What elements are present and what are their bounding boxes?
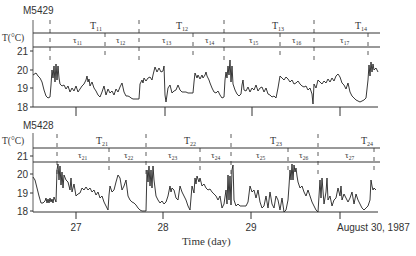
tau14-label: τ14 [205,35,214,46]
bottom-ytick-20: 20 [17,169,29,180]
top-ytick-19: 19 [17,83,29,94]
chart-figure: M5429 T(°C) 21 20 19 18 T [0,0,416,256]
top-y-label: T(°C) [2,33,24,44]
bottom-ytick-19: 19 [17,188,29,199]
bottom-ytick-18: 18 [17,206,29,217]
bottom-ytick-21: 21 [17,151,29,162]
top-ytick-18: 18 [17,102,29,113]
tau16-label: τ16 [292,35,301,46]
tau23-label: τ23 [168,150,177,161]
top-temperature-trace [33,60,378,104]
tau26-label: τ26 [299,150,308,161]
T14-label: T14 [355,20,367,32]
T24-label: T24 [361,135,373,147]
tau24-label: τ24 [211,150,220,161]
T13-label: T13 [272,20,284,32]
top-ytick-20: 20 [17,65,29,76]
xtick-30: August 30, 1987 [337,222,410,233]
bottom-station-label: M5428 [23,120,54,131]
xtick-29: 29 [245,222,257,233]
tau17-label: τ17 [340,35,349,46]
tau12-label: τ12 [116,35,125,46]
tau27-label: τ27 [345,150,354,161]
tau15-label: τ15 [249,35,258,46]
top-ytick-21: 21 [17,46,29,57]
top-panel: M5429 T(°C) 21 20 19 18 T [2,5,380,116]
tau25-label: τ25 [256,150,265,161]
x-axis-label: Time (day) [182,235,231,248]
top-station-label: M5429 [23,5,54,16]
tau21-label: τ21 [78,150,87,161]
T12-label: T12 [176,20,188,32]
bottom-y-label: T(°C) [2,136,24,147]
tau22-label: τ22 [124,150,133,161]
T23-label: T23 [270,135,282,147]
T21-label: T21 [96,135,108,147]
T22-label: T22 [184,135,196,147]
xtick-27: 27 [70,222,82,233]
xtick-28: 28 [157,222,169,233]
bottom-panel: M5428 T(°C) 21 20 19 18 27 28 29 August … [2,120,410,248]
tau11-label: τ11 [73,35,82,46]
T11-label: T11 [90,20,102,32]
bottom-temperature-trace [33,164,376,212]
tau13-label: τ13 [162,35,171,46]
